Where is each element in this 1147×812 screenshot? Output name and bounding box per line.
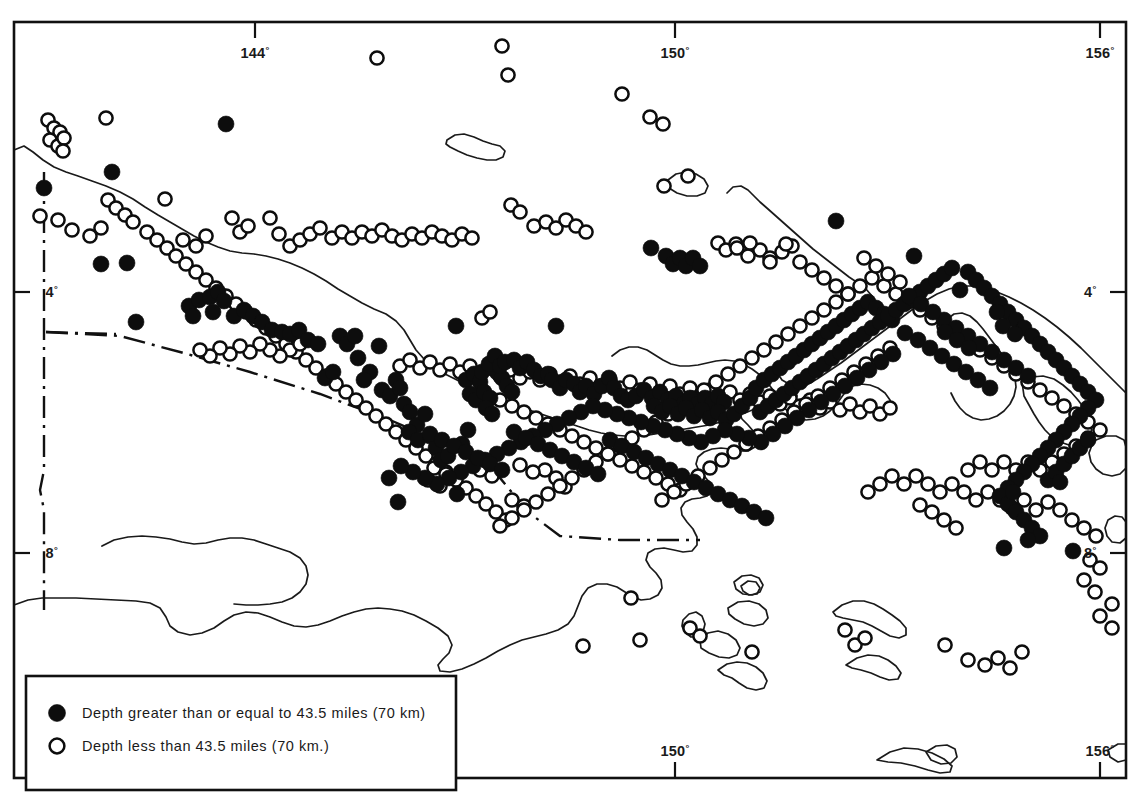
epicenter-shallow (933, 485, 946, 498)
epicenter-shallow (513, 205, 526, 218)
epicenter-shallow (945, 477, 958, 490)
epicenter-shallow (921, 477, 934, 490)
island-woodlark (728, 601, 768, 626)
epicenter-shallow (857, 251, 870, 264)
epicenter-shallow (565, 471, 578, 484)
epicenter-deep (494, 462, 510, 478)
epicenter-deep (996, 540, 1012, 556)
epicenter-shallow (1045, 391, 1058, 404)
epicenter-shallow (313, 221, 326, 234)
epicenter-shallow (94, 221, 107, 234)
epicenter-deep (218, 116, 234, 132)
epicenter-deep (1065, 543, 1081, 559)
epicenter-shallow (869, 259, 882, 272)
epicenter-shallow (991, 651, 1004, 664)
epicenter-shallow (1029, 503, 1042, 516)
epicenter-shallow (829, 295, 842, 308)
epicenter-deep (590, 466, 606, 482)
epicenter-deep (449, 486, 465, 502)
epicenter-shallow (693, 629, 706, 642)
epicenter-deep (356, 372, 372, 388)
axis-tick-label: 150° (660, 44, 689, 62)
island-small-north-1 (446, 134, 505, 160)
epicenter-shallow (841, 287, 854, 300)
epicenter-shallow (176, 233, 189, 246)
epicenter-shallow (193, 343, 206, 356)
epicenter-shallow (779, 237, 792, 250)
epicenter-deep (944, 260, 960, 276)
epicenter-shallow (370, 51, 383, 64)
epicenter-shallow (1105, 597, 1118, 610)
epicenter-deep (350, 350, 366, 366)
epicenter-deep (484, 406, 500, 422)
epicenter-shallow (957, 485, 970, 498)
island-small-bottom (926, 745, 957, 764)
epicenter-shallow (1093, 423, 1106, 436)
epicenter-shallow (529, 495, 542, 508)
island-islet-1 (741, 581, 760, 595)
epicenter-shallow (541, 487, 554, 500)
epicenter-shallow (897, 477, 910, 490)
epicenter-shallow (576, 639, 589, 652)
legend-filled-circle-icon (49, 705, 66, 722)
epicenter-deep (504, 384, 520, 400)
epicenter-shallow (763, 255, 776, 268)
epicenter-shallow (465, 231, 478, 244)
island-tabar (1105, 516, 1126, 543)
epicenter-deep (828, 213, 844, 229)
epicenter-deep (961, 340, 977, 356)
epicenter-deep (982, 380, 998, 396)
epicenter-shallow (1089, 529, 1102, 542)
epicenter-shallow (985, 463, 998, 476)
epicenter-shallow (1003, 661, 1016, 674)
epicenter-shallow (1041, 495, 1054, 508)
epicenter-deep (1052, 474, 1068, 490)
epicenter-shallow (961, 463, 974, 476)
epicenter-shallow (721, 367, 734, 380)
epicenter-shallow (861, 485, 874, 498)
epicenter-shallow (553, 479, 566, 492)
epicenter-deep (119, 255, 135, 271)
epicenter-shallow (643, 110, 656, 123)
coastline-inlet-west (102, 536, 308, 605)
epicenter-deep (390, 494, 406, 510)
epicenter-shallow (51, 213, 64, 226)
epicenter-shallow (925, 505, 938, 518)
epicenter-shallow (495, 39, 508, 52)
epicenter-shallow (781, 327, 794, 340)
epicenter-deep (460, 422, 476, 438)
epicenter-shallow (56, 144, 69, 157)
boundary-meridian-141e-lower (40, 318, 44, 610)
epicenter-deep (93, 256, 109, 272)
epicenter-shallow (969, 493, 982, 506)
epicenter-shallow (126, 215, 139, 228)
epicenter-deep (643, 240, 659, 256)
epicenter-shallow (881, 267, 894, 280)
epicenter-shallow (973, 455, 986, 468)
epicenter-deep (448, 318, 464, 334)
epicenter-shallow (745, 351, 758, 364)
axis-tick-label: 156° (1085, 742, 1114, 760)
legend-open-circle-icon (50, 739, 65, 754)
map-frame-group (14, 22, 1126, 778)
axis-tick-label: 150° (660, 742, 689, 760)
epicenter-deep (925, 304, 941, 320)
epicenter-deep (1020, 368, 1036, 384)
epicenter-deep (952, 282, 968, 298)
epicenter-shallow (655, 493, 668, 506)
epicenter-shallow (513, 458, 526, 471)
epicenter-deep (392, 380, 408, 396)
epicenter-deep (1020, 532, 1036, 548)
epicenter-deep (393, 458, 409, 474)
epicenter-shallow (817, 271, 830, 284)
legend-box (26, 676, 456, 790)
epicenter-deep (310, 336, 326, 352)
epicenter-shallow (1033, 383, 1046, 396)
epicenter-shallow (793, 255, 806, 268)
epicenter-shallow (858, 631, 871, 644)
epicenter-deep (36, 180, 52, 196)
epicenter-shallow (1053, 503, 1066, 516)
epicenter-shallow (1093, 561, 1106, 574)
epicenter-deep (128, 314, 144, 330)
epicenter-shallow (57, 131, 70, 144)
